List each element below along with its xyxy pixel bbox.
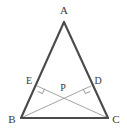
segment-BD [21,86,91,118]
label-P: P [60,82,66,93]
label-D: D [94,75,101,86]
segment-CE [37,86,108,118]
right-angle-mark-E [38,89,45,94]
segment-AC [64,22,108,118]
label-B: B [8,113,15,125]
segment-AB [21,22,64,118]
triangle-outline-group [21,22,108,118]
label-C: C [112,113,119,125]
label-A: A [60,4,68,16]
geometry-figure: A B C E D P [0,0,127,135]
geometry-canvas: A B C E D P [0,0,127,135]
label-E: E [26,75,32,86]
